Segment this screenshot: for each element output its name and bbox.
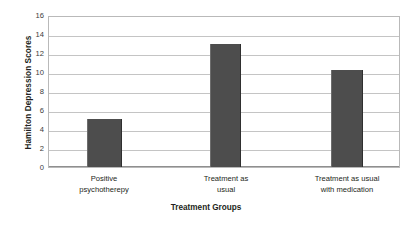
x-tick-label-group-2: Treatment as usual xyxy=(176,174,276,195)
bar-treatment-as-usual xyxy=(210,44,241,167)
bar-chart: Hamilton Depression Scores 16 14 12 10 8… xyxy=(0,0,412,225)
x-tick-label-group-1: Positive psychotherepy xyxy=(58,174,150,195)
y-tick-label: 4 xyxy=(18,126,44,134)
y-tick-label: 10 xyxy=(18,69,44,77)
bar-treatment-as-usual-with-medication xyxy=(331,70,363,167)
x-tick-label-line: usual xyxy=(176,185,276,196)
y-axis-tick-labels: 16 14 12 10 8 6 4 2 0 xyxy=(18,0,44,225)
y-tick-label: 0 xyxy=(18,164,44,172)
x-tick-label-line: Treatment as xyxy=(176,174,276,185)
gridline xyxy=(49,36,399,37)
y-tick-label: 8 xyxy=(18,88,44,96)
y-tick-label: 12 xyxy=(18,50,44,58)
bar-positive-psychotherepy xyxy=(87,119,122,167)
x-tick-label-line: psychotherepy xyxy=(58,185,150,196)
x-tick-label-line: Treatment as usual xyxy=(288,174,406,185)
y-tick-label: 2 xyxy=(18,145,44,153)
x-tick-label-line: Positive xyxy=(58,174,150,185)
x-axis-title: Treatment Groups xyxy=(0,203,412,212)
x-tick-label-line: with medication xyxy=(288,185,406,196)
x-tick-label-group-3: Treatment as usual with medication xyxy=(288,174,406,195)
y-tick-label: 14 xyxy=(18,31,44,39)
y-tick-label: 16 xyxy=(18,12,44,20)
plot-area xyxy=(48,16,400,168)
y-tick-label: 6 xyxy=(18,107,44,115)
